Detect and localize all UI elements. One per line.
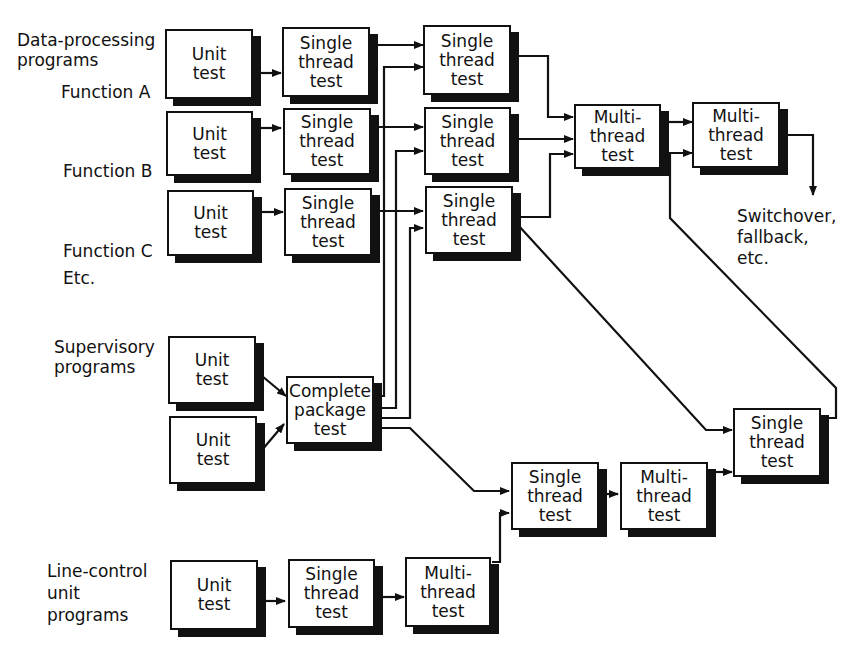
test-flow-diagram: Data-processing programs Function A Func… (0, 0, 861, 654)
box-text: thread (441, 211, 497, 230)
multi-thread-test-2: Multi- thread test (692, 102, 780, 168)
line-control-unit-test: Unit test (170, 560, 258, 630)
box-text: test (761, 452, 794, 471)
box-text: Single (441, 32, 493, 51)
line-control-multi-thread-test: Multi- thread test (405, 557, 491, 627)
box-text: test (314, 420, 347, 439)
box-text: thread (636, 487, 692, 506)
box-text: Single (529, 468, 581, 487)
label-line: programs (54, 357, 155, 377)
box-text: Multi- (424, 564, 472, 583)
box-text: test (310, 72, 343, 91)
box-text: thread (439, 51, 495, 70)
integration-multi-thread-test: Multi- thread test (620, 462, 708, 530)
function-c-unit-test: Unit test (167, 190, 254, 256)
function-b-unit-test: Unit test (166, 111, 253, 176)
label-data-processing: Data-processing programs (17, 30, 155, 70)
box-text: thread (299, 132, 355, 151)
label-line: fallback, (737, 227, 837, 248)
box-text: test (197, 450, 230, 469)
box-text: test (451, 151, 484, 170)
box-text: test (720, 145, 753, 164)
box-text: Single (441, 113, 493, 132)
supervisory-unit-test-1: Unit test (168, 336, 256, 404)
label-line: Data-processing (17, 30, 155, 50)
complete-package-test: Complete package test (286, 376, 374, 444)
function-b-single-thread-test: Single thread test (283, 108, 371, 175)
box-text: thread (749, 433, 805, 452)
box-text: Unit (192, 45, 227, 64)
label-function-c: Function C (63, 241, 153, 261)
label-function-a: Function A (61, 82, 150, 102)
box-text: test (196, 370, 229, 389)
function-a-single-thread-test-2: Single thread test (423, 25, 511, 95)
box-text: Unit (192, 125, 227, 144)
function-c-single-thread-test: Single thread test (284, 188, 372, 256)
box-text: test (193, 144, 226, 163)
label-line: etc. (737, 248, 837, 269)
multi-thread-test-1: Multi- thread test (574, 104, 661, 169)
supervisory-unit-test-2: Unit test (169, 416, 257, 484)
label-function-b: Function B (63, 161, 152, 181)
box-text: package (294, 401, 366, 420)
box-text: test (451, 70, 484, 89)
box-text: Single (300, 34, 352, 53)
box-text: thread (304, 584, 360, 603)
box-text: thread (298, 53, 354, 72)
function-b-single-thread-test-2: Single thread test (424, 107, 511, 175)
box-text: Single (301, 113, 353, 132)
box-text: Unit (193, 204, 228, 223)
box-text: test (315, 603, 348, 622)
box-text: test (311, 151, 344, 170)
box-text: test (194, 223, 227, 242)
function-a-single-thread-test: Single thread test (282, 27, 370, 97)
label-line: unit (47, 582, 148, 604)
box-text: test (539, 506, 572, 525)
box-text: Multi- (594, 108, 642, 127)
label-line: Switchover, (737, 206, 837, 227)
box-text: thread (420, 583, 476, 602)
box-text: thread (708, 126, 764, 145)
box-text: test (198, 595, 231, 614)
label-switchover: Switchover, fallback, etc. (737, 206, 837, 269)
label-line-control: Line-control unit programs (47, 560, 148, 626)
box-text: test (193, 64, 226, 83)
final-single-thread-test: Single thread test (733, 408, 821, 477)
label-line: programs (47, 604, 148, 626)
box-text: thread (590, 127, 646, 146)
line-control-single-thread-test: Single thread test (288, 559, 375, 628)
box-text: test (312, 232, 345, 251)
box-text: test (432, 602, 465, 621)
box-text: Unit (195, 351, 230, 370)
box-text: Single (305, 565, 357, 584)
box-text: thread (440, 132, 496, 151)
box-text: Unit (196, 431, 231, 450)
function-a-unit-test: Unit test (165, 29, 253, 99)
box-text: Unit (197, 576, 232, 595)
integration-single-thread-test: Single thread test (511, 462, 599, 530)
box-text: Single (302, 194, 354, 213)
function-c-single-thread-test-2: Single thread test (425, 186, 513, 254)
box-text: test (648, 506, 681, 525)
label-line: programs (17, 50, 155, 70)
box-text: thread (527, 487, 583, 506)
box-text: Single (443, 192, 495, 211)
box-text: thread (300, 213, 356, 232)
box-text: test (601, 146, 634, 165)
box-text: Single (751, 414, 803, 433)
label-etc: Etc. (63, 268, 95, 288)
box-text: Multi- (640, 468, 688, 487)
box-text: Complete (289, 382, 371, 401)
label-line: Supervisory (54, 337, 155, 357)
label-supervisory: Supervisory programs (54, 337, 155, 377)
box-text: Multi- (712, 107, 760, 126)
label-line: Line-control (47, 560, 148, 582)
box-text: test (453, 230, 486, 249)
